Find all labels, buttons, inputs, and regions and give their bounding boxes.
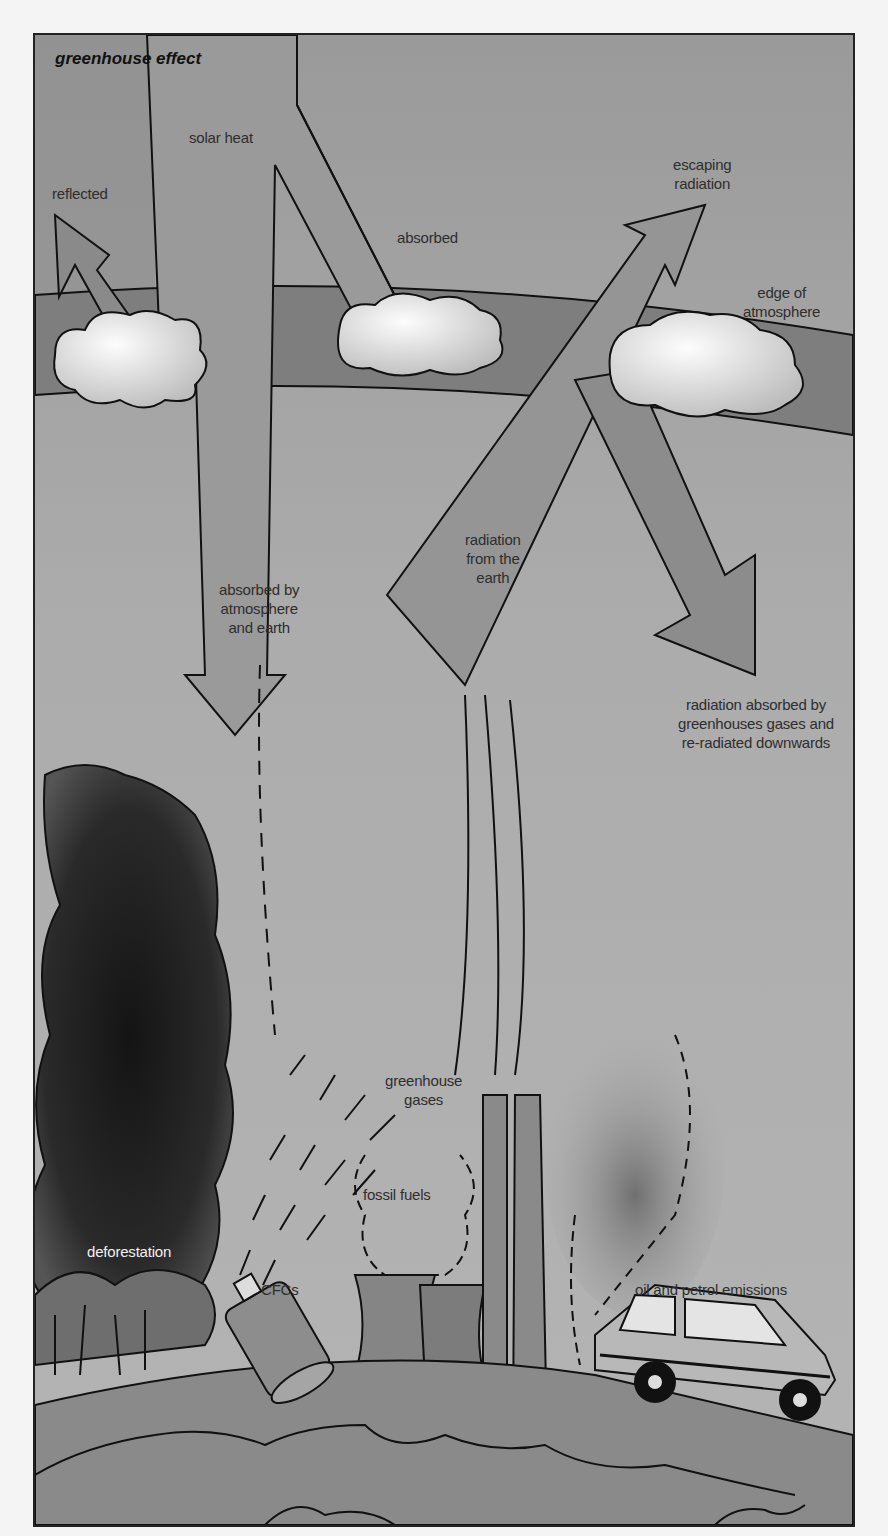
label-escaping-radiation: escaping radiation <box>673 155 731 193</box>
label-greenhouse-gases: greenhouse gases <box>385 1071 462 1109</box>
label-deforestation: deforestation <box>87 1242 171 1261</box>
label-absorbed-by-atmosphere: absorbed by atmosphere and earth <box>219 580 299 637</box>
label-absorbed: absorbed <box>397 228 458 247</box>
label-fossil-fuels: fossil fuels <box>363 1185 431 1204</box>
label-reflected: reflected <box>52 184 108 203</box>
label-edge-of-atmosphere: edge of atmosphere <box>743 283 820 321</box>
label-cfcs: CFCs <box>261 1280 299 1299</box>
label-radiation-from-earth: radiation from the earth <box>465 530 521 587</box>
diagram-title: greenhouse effect <box>55 49 201 69</box>
greenhouse-illustration <box>35 35 853 1525</box>
label-solar-heat: solar heat <box>189 128 253 147</box>
label-re-radiated: radiation absorbed by greenhouses gases … <box>678 695 834 752</box>
diagram-frame: greenhouse effect solar heat reflected a… <box>33 33 855 1527</box>
label-oil-petrol-emissions: oil and petrol emissions <box>635 1280 787 1299</box>
